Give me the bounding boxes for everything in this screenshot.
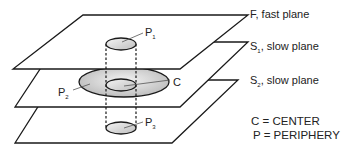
s2-plane-label: S2, slow plane	[250, 74, 319, 88]
f-plane-label: F, fast plane	[250, 8, 309, 20]
c-label: C	[173, 76, 181, 88]
legend-center: C = CENTER	[251, 115, 320, 127]
p1-periphery-ellipse	[106, 38, 136, 50]
s1-plane-label: S1, slow plane	[250, 40, 319, 54]
stacked-planes-diagram: P1 P2 P3 C F, fast plane S1, slow plane …	[0, 0, 351, 151]
p3-periphery-ellipse	[106, 122, 136, 134]
legend-periphery: P = PERIPHERY	[253, 129, 340, 141]
